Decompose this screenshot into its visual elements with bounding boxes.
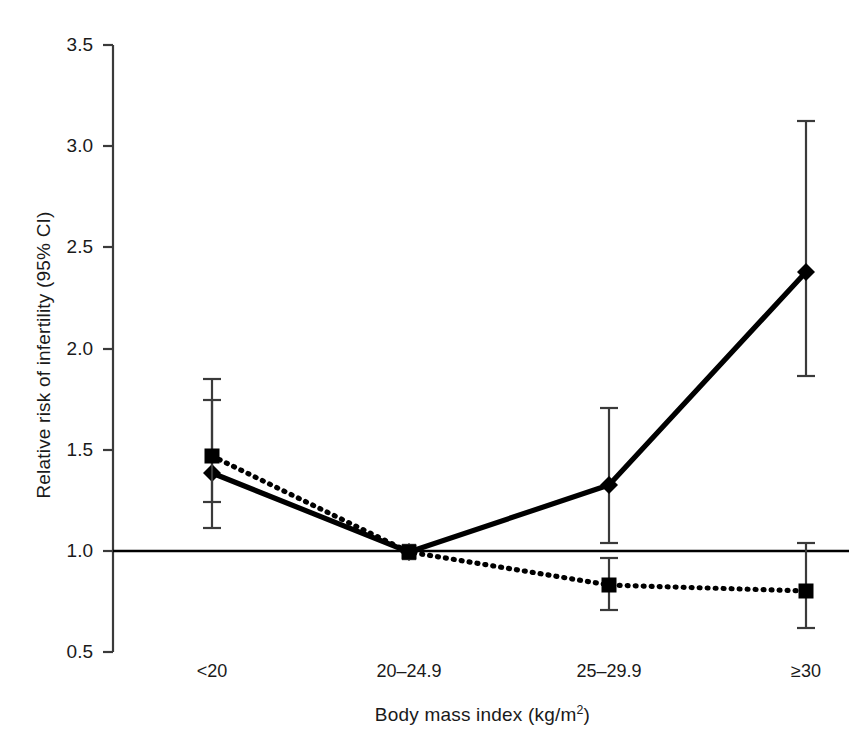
- series-square-errorbars: [203, 400, 815, 628]
- relative-risk-line-chart: [0, 0, 852, 748]
- series-diamond-line: [212, 272, 806, 552]
- x-tick-label-under-20: <20: [142, 661, 282, 682]
- x-axis-title-tail: ): [584, 704, 591, 725]
- y-axis-title: Relative risk of infertility (95% CI): [33, 145, 55, 565]
- x-axis-title-base: Body mass index (kg/m: [375, 704, 577, 725]
- x-tick-label-20-24-9: 20–24.9: [339, 661, 479, 682]
- x-axis-title: Body mass index (kg/m2): [113, 704, 852, 726]
- series-diamond-errorbars: [203, 121, 815, 559]
- chart-figure: 3.5 3.0 2.5 2.0 1.5 1.0 0.5 <20 20–24.9 …: [0, 0, 852, 748]
- series-square-markers: [205, 449, 814, 599]
- y-tick-label-0-5: 0.5: [33, 641, 93, 663]
- x-tick-label-25-29-9: 25–29.9: [539, 661, 679, 682]
- x-tick-label-30-plus: ≥30: [736, 661, 852, 682]
- series-square-line: [212, 456, 806, 591]
- x-axis-title-exponent: 2: [577, 703, 584, 717]
- y-axis-ticks: [103, 45, 113, 652]
- y-tick-label-3-5: 3.5: [33, 34, 93, 56]
